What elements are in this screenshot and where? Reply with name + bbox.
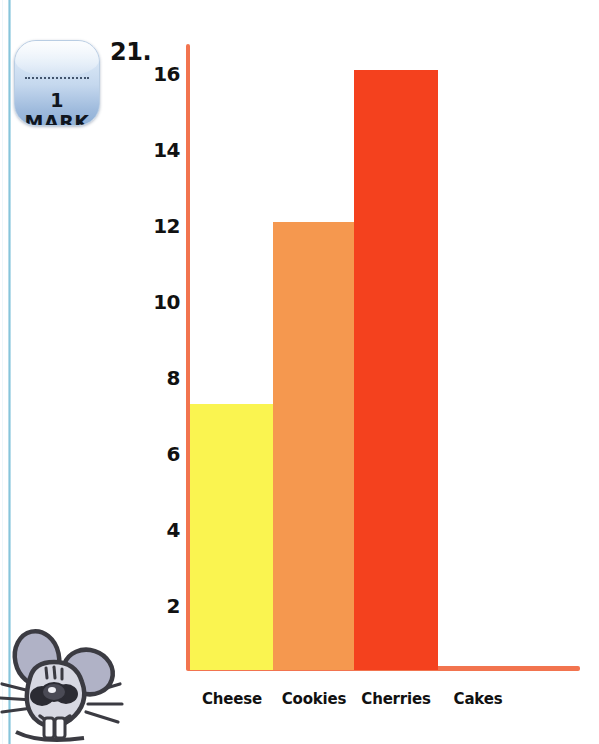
y-tick-label-8: 8 (140, 366, 180, 390)
y-tick-label-10: 10 (140, 290, 180, 314)
bar-cherries (354, 70, 438, 670)
y-tick-label-6: 6 (140, 442, 180, 466)
x-label-cakes: Cakes (428, 690, 528, 708)
bar-cheese (190, 404, 273, 670)
y-tick-label-2: 2 (140, 594, 180, 618)
y-tick-label-14: 14 (140, 138, 180, 162)
mouse-mascot-icon (0, 612, 130, 744)
y-tick-label-12: 12 (140, 214, 180, 238)
bar-cookies (273, 222, 354, 670)
worksheet-page: 1 MARK 21. 16 14 12 10 8 6 4 2 Cheese Co… (0, 0, 599, 744)
y-tick-label-4: 4 (140, 518, 180, 542)
y-tick-label-16: 16 (140, 62, 180, 86)
